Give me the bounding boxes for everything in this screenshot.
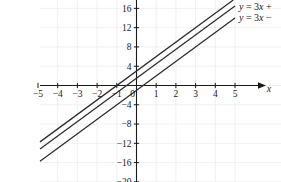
eq-top-eq: = 3	[243, 1, 259, 12]
y-tick-label: −8	[121, 119, 131, 129]
coordinate-graph: −5−4−3−2−112345161284−4−8−12−16−200 x	[0, 0, 281, 182]
y-tick-label: 12	[122, 23, 132, 33]
x-tick-label: −3	[72, 89, 82, 99]
x-tick-label: 5	[233, 89, 238, 99]
equation-label-top: y = 3x +	[239, 1, 272, 12]
y-tick-label: 16	[122, 4, 132, 14]
y-tick-label: −4	[121, 100, 131, 110]
eq-top-sign: +	[264, 1, 272, 12]
y-tick-label: 4	[127, 62, 132, 72]
x-tick-label: −2	[92, 89, 102, 99]
x-tick-label: 3	[193, 89, 198, 99]
x-tick-label: −5	[33, 89, 43, 99]
x-tick-label: 2	[174, 89, 179, 99]
x-axis-name: x	[266, 83, 272, 94]
origin-label: 0	[130, 89, 135, 99]
y-tick-label: 8	[127, 42, 132, 52]
y-tick-label: −16	[117, 158, 132, 168]
y-tick-label: −12	[117, 139, 132, 149]
x-tick-label: −1	[112, 89, 122, 99]
eq-bottom-sign: −	[264, 12, 272, 23]
y-tick-label: −20	[117, 177, 132, 182]
eq-bottom-eq: = 3	[243, 12, 259, 23]
axis-name-labels: x	[266, 83, 272, 94]
x-tick-label: 4	[213, 89, 218, 99]
equation-label-bottom: y = 3x −	[239, 12, 272, 23]
x-tick-label: 1	[154, 89, 159, 99]
x-tick-label: −4	[53, 89, 63, 99]
